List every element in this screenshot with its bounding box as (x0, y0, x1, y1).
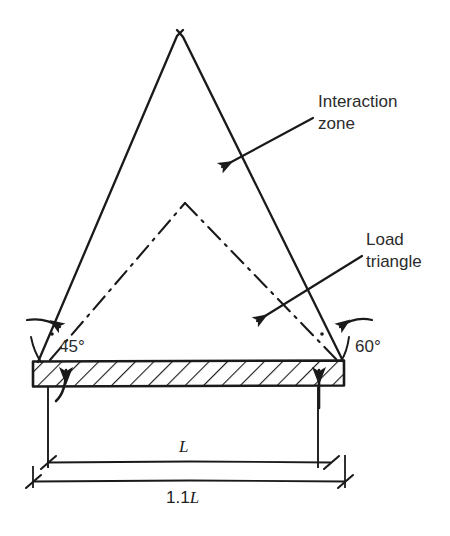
beam (33, 361, 344, 387)
dimension-L-line (48, 462, 331, 463)
diagram-canvas: 45° 60° Interaction zone Load triangle L (0, 0, 450, 536)
angle-dot-left (50, 332, 54, 336)
interaction-zone-label-line1: Interaction (318, 92, 397, 111)
angle-dot-right (320, 332, 324, 336)
angle-label-right: 60° (355, 337, 381, 356)
dimension-outer-label: 1.1L (166, 488, 199, 507)
dimension-outer-line (33, 481, 346, 482)
load-triangle-label-line2: triangle (366, 252, 422, 271)
dimension-outer-symbol: L (189, 488, 199, 507)
angle-label-left: 45° (59, 337, 85, 356)
dimension-L-label: L (178, 437, 188, 456)
engineering-diagram: 45° 60° Interaction zone Load triangle L (0, 0, 450, 536)
interaction-zone-label-line2: zone (318, 114, 355, 133)
load-triangle-label-line1: Load (366, 230, 404, 249)
beam-hatch-fill (33, 361, 344, 387)
dimension-outer-prefix: 1.1 (166, 488, 190, 507)
